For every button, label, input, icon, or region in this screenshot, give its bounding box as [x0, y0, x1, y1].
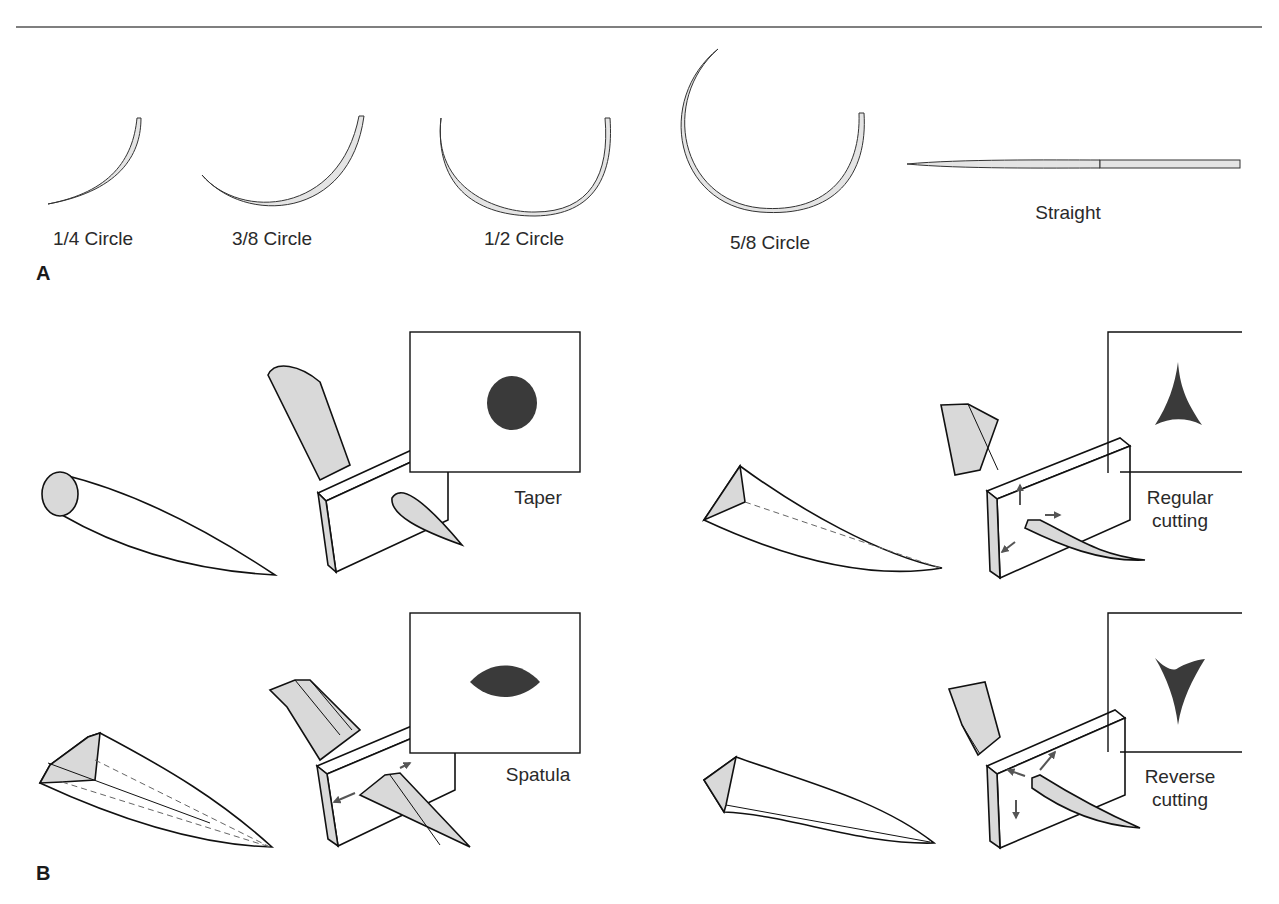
spatula-tip-drawing	[40, 613, 580, 847]
label-quarter-circle: 1/4 Circle	[53, 227, 133, 250]
label-taper-line1: Taper	[514, 487, 562, 508]
needle-diagram	[0, 0, 1279, 904]
reverse-cutting-tip-drawing	[704, 613, 1242, 848]
label-straight: Straight	[1035, 201, 1100, 224]
regular-cutting-tip-drawing	[704, 332, 1242, 578]
label-half-circle: 1/2 Circle	[484, 227, 564, 250]
label-regular-cutting: Regular cutting	[1147, 486, 1214, 532]
label-spatula-line1: Spatula	[506, 764, 570, 785]
label-three-eighths-circle: 3/8 Circle	[232, 227, 312, 250]
label-reverse-cutting-line2: cutting	[1145, 788, 1216, 811]
triangle-up-cross-section-icon	[1155, 362, 1202, 425]
label-spatula: Spatula	[506, 763, 570, 786]
label-regular-cutting-line1: Regular	[1147, 486, 1214, 509]
taper-tip-drawing	[42, 332, 580, 575]
label-five-eighths-circle: 5/8 Circle	[730, 231, 810, 254]
label-regular-cutting-line2: cutting	[1147, 509, 1214, 532]
needle-half-circle	[440, 118, 610, 216]
needle-straight	[907, 160, 1240, 168]
label-reverse-cutting-line1: Reverse	[1145, 765, 1216, 788]
circle-cross-section-icon	[487, 376, 537, 430]
triangle-down-cross-section-icon	[1155, 658, 1205, 725]
label-taper: Taper	[514, 486, 562, 509]
needle-quarter-circle	[48, 118, 141, 204]
panel-label-b: B	[36, 862, 50, 885]
panel-label-a: A	[36, 262, 50, 285]
label-reverse-cutting: Reverse cutting	[1145, 765, 1216, 811]
needle-five-eighths-circle	[681, 49, 864, 213]
needle-three-eighths-circle	[202, 116, 364, 206]
